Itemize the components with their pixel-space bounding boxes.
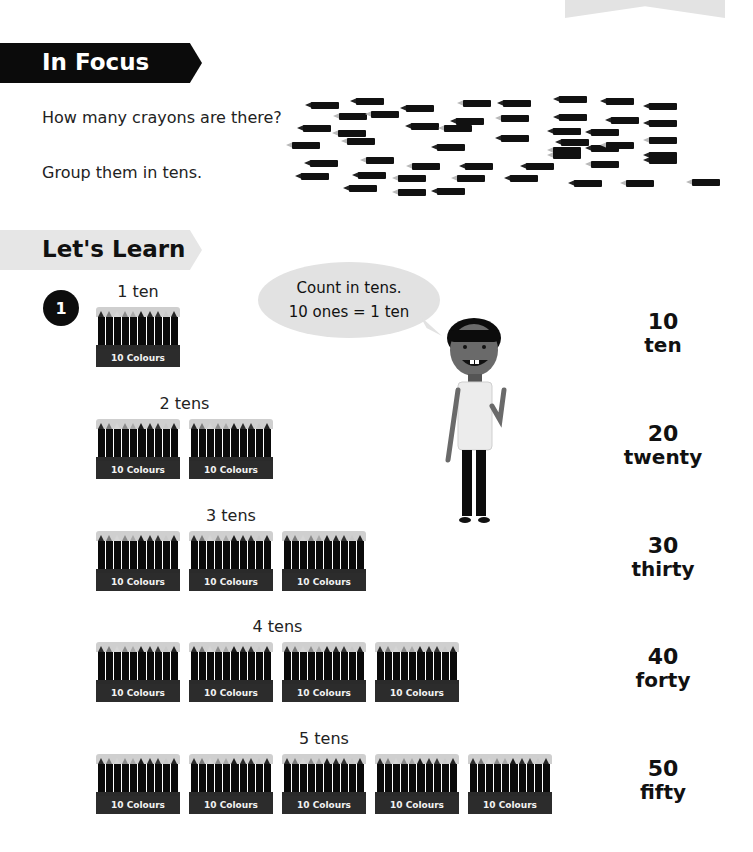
loose-crayon: [497, 100, 533, 107]
boxed-crayon: [510, 764, 517, 792]
crayon-body: [398, 189, 426, 196]
loose-crayon: [520, 163, 556, 170]
loose-crayon: [495, 115, 531, 122]
boxed-crayon: [98, 541, 105, 569]
box-label: 10 Colours: [468, 796, 552, 814]
boxed-crayon: [163, 317, 170, 345]
box-label: 10 Colours: [282, 796, 366, 814]
box-crayons: [191, 758, 271, 792]
boxed-crayon: [163, 429, 170, 457]
number-numeral: 50: [600, 757, 726, 781]
boxed-crayon: [341, 541, 348, 569]
crayon-body: [437, 188, 465, 195]
box-label: 10 Colours: [96, 684, 180, 702]
crayon-body: [503, 100, 531, 107]
boxed-crayon: [155, 652, 162, 680]
boxed-crayon: [256, 429, 263, 457]
crayon-box: 10 Colours: [96, 642, 180, 702]
lets-learn-banner: Let's Learn: [0, 230, 202, 270]
boxed-crayon: [292, 541, 299, 569]
boxed-crayon: [292, 652, 299, 680]
boxed-crayon: [130, 429, 137, 457]
box-label: 10 Colours: [282, 684, 366, 702]
box-label: 10 Colours: [96, 573, 180, 591]
loose-crayon: [400, 105, 436, 112]
loose-crayon: [431, 144, 467, 151]
boxed-crayon: [324, 764, 331, 792]
boxed-crayon: [147, 652, 154, 680]
loose-crayon: [643, 103, 679, 110]
box-label: 10 Colours: [375, 796, 459, 814]
boxed-crayon: [264, 429, 271, 457]
number-word: twenty: [600, 446, 726, 468]
boxed-crayon: [147, 541, 154, 569]
loose-crayon: [304, 160, 340, 167]
boxed-crayon: [385, 764, 392, 792]
boxed-crayon: [248, 429, 255, 457]
boxed-crayon: [191, 429, 198, 457]
crayon-body: [606, 98, 634, 105]
boxed-crayon: [300, 764, 307, 792]
crayon-body: [358, 172, 386, 179]
crayon-body: [456, 118, 484, 125]
boxed-crayon: [122, 652, 129, 680]
crayon-box: 10 Colours: [96, 307, 180, 367]
crayon-body: [649, 103, 677, 110]
crayon-body: [649, 137, 677, 144]
loose-crayon: [585, 129, 621, 136]
boxed-crayon: [543, 764, 550, 792]
boxed-crayon: [256, 541, 263, 569]
boxed-crayon: [106, 541, 113, 569]
speech-line-1: Count in tens.: [258, 276, 440, 300]
boxed-crayon: [409, 764, 416, 792]
boxed-crayon: [316, 764, 323, 792]
crayon-box: 10 Colours: [96, 531, 180, 591]
boxed-crayon: [199, 652, 206, 680]
box-crayons: [284, 646, 364, 680]
loose-crayon: [686, 179, 722, 186]
in-focus-question: How many crayons are there?: [42, 108, 282, 127]
crayon-body: [553, 128, 581, 135]
boxed-crayon: [147, 764, 154, 792]
boxed-crayon: [426, 652, 433, 680]
boxed-crayon: [122, 429, 129, 457]
box-label: 10 Colours: [96, 796, 180, 814]
number-numeral: 10: [600, 310, 726, 334]
boxed-crayon: [114, 317, 121, 345]
box-crayons: [191, 423, 271, 457]
crayon-body: [606, 142, 634, 149]
crayon-body: [371, 111, 399, 118]
lets-learn-title: Let's Learn: [42, 236, 185, 262]
crayon-body: [292, 142, 320, 149]
crayon-body: [626, 180, 654, 187]
boxed-crayon: [199, 541, 206, 569]
loose-crayon: [643, 120, 679, 127]
crayon-body: [303, 125, 331, 132]
crayon-body: [465, 163, 493, 170]
boxed-crayon: [114, 652, 121, 680]
boxed-crayon: [240, 652, 247, 680]
loose-crayons-illustration: [285, 92, 725, 204]
crayon-body: [591, 129, 619, 136]
boxed-crayon: [231, 652, 238, 680]
speech-bubble-text: Count in tens. 10 ones = 1 ten: [258, 276, 440, 324]
crayon-body: [412, 163, 440, 170]
crayon-body: [649, 120, 677, 127]
crayon-box: 10 Colours: [189, 531, 273, 591]
loose-crayon: [352, 172, 388, 179]
boxed-crayon: [207, 764, 214, 792]
boxed-crayon: [494, 764, 501, 792]
boxed-crayon: [308, 652, 315, 680]
loose-crayon: [332, 130, 368, 137]
boxed-crayon: [171, 429, 178, 457]
speech-line-2: 10 ones = 1 ten: [258, 300, 440, 324]
boxed-crayon: [106, 652, 113, 680]
loose-crayon: [286, 142, 322, 149]
row-label: 3 tens: [96, 506, 366, 525]
crayon-body: [553, 147, 581, 154]
box-crayons: [284, 535, 364, 569]
boxed-crayon: [284, 652, 291, 680]
loose-crayon: [392, 175, 428, 182]
number-numeral: 20: [600, 422, 726, 446]
loose-crayon: [360, 157, 396, 164]
